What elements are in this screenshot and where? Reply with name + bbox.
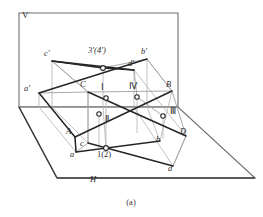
marker-roman-4 (135, 95, 139, 99)
marker-roman-1 (104, 96, 108, 100)
label-roman-2: Ⅱ (105, 114, 109, 124)
marker-3-4-prime (101, 66, 106, 71)
marker-roman-3 (161, 114, 165, 118)
label-a-lower: a (70, 149, 74, 159)
label-C: C (80, 79, 86, 89)
label-B: B (166, 79, 171, 89)
label-v-plane: V (22, 10, 29, 20)
label-c-lower: c (80, 138, 84, 148)
projection-diagram-svg: V c' 3'(4') b' d' a' C Ⅰ Ⅳ B Ⅲ Ⅱ A c b D… (0, 0, 263, 217)
label-roman-3: Ⅲ (170, 106, 176, 116)
line-A-a (75, 137, 76, 152)
label-a-prime: a' (24, 83, 30, 93)
label-h-plane: H (89, 174, 97, 184)
label-d-prime: d' (128, 58, 134, 68)
label-roman-1: Ⅰ (101, 82, 104, 92)
figure-caption: (a) (126, 197, 136, 207)
label-b-prime: b' (141, 46, 147, 56)
label-b-lower: b (156, 134, 160, 144)
label-roman-4: Ⅳ (129, 81, 138, 91)
figure-container: V c' 3'(4') b' d' a' C Ⅰ Ⅳ B Ⅲ Ⅱ A c b D… (0, 0, 263, 217)
label-A: A (65, 126, 72, 136)
label-3-4-prime: 3'(4') (87, 45, 106, 55)
label-1-2: 1(2) (97, 149, 111, 159)
label-c-prime: c' (44, 48, 50, 58)
marker-roman-2 (97, 112, 101, 116)
label-D: D (179, 126, 187, 136)
